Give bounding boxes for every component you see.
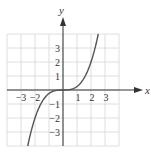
x-axis-arrow-icon — [134, 87, 143, 93]
x-axis-label: x — [144, 84, 150, 96]
y-tick-label: 3 — [55, 43, 60, 54]
y-tick-label: 2 — [55, 57, 60, 68]
y-tick-label: 1 — [55, 71, 60, 82]
y-tick-label: −1 — [49, 99, 60, 110]
x-tick-label: 3 — [104, 92, 109, 103]
y-axis-label: y — [58, 4, 64, 16]
y-tick-label: −3 — [49, 127, 60, 138]
x-tick-label: 2 — [90, 92, 95, 103]
x-tick-label: 1 — [76, 92, 81, 103]
y-axis-arrow-icon — [60, 17, 66, 26]
x-tick-label: −3 — [16, 92, 27, 103]
x-tick-label: −2 — [30, 92, 41, 103]
axes — [7, 17, 143, 146]
cubic-graph: −3−2123321−1−2−3 x y — [0, 0, 151, 156]
y-tick-label: −2 — [49, 113, 60, 124]
